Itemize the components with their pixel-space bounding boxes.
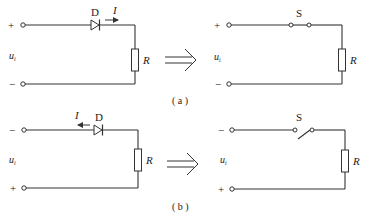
diode-icon: [94, 125, 103, 136]
panel-a-switch-circuit: + S R − ui: [214, 7, 357, 90]
bottom-terminal-icon: [227, 82, 231, 86]
top-terminal-polarity: +: [214, 19, 220, 31]
equivalence-arrow-icon: [167, 153, 198, 175]
top-terminal-icon: [21, 23, 25, 27]
source-voltage-label: ui: [214, 51, 221, 63]
bottom-terminal-icon: [22, 186, 26, 190]
resistor-label: R: [145, 154, 153, 166]
switch-closed-icon: [289, 23, 311, 27]
bottom-terminal-icon: [21, 82, 25, 86]
diode-icon: [91, 20, 100, 31]
top-terminal-polarity: −: [9, 124, 15, 136]
source-voltage-label: ui: [9, 154, 16, 166]
bottom-terminal-polarity: −: [215, 78, 221, 90]
caption-b: ( b ): [172, 201, 189, 213]
resistor-icon: [342, 150, 349, 172]
panel-b-diode-circuit: − D I R + ui: [9, 109, 153, 194]
top-terminal-polarity: +: [8, 19, 14, 31]
resistor-icon: [132, 49, 139, 71]
panel-b-switch-circuit: − S R + ui: [218, 111, 360, 195]
equivalence-arrow-icon: [165, 49, 196, 71]
circuit-diagram: + D I R − ui + S: [0, 0, 368, 219]
resistor-label: R: [349, 54, 357, 66]
caption-a: ( a ): [172, 95, 188, 107]
bottom-terminal-icon: [230, 187, 234, 191]
bottom-terminal-polarity: −: [9, 78, 15, 90]
switch-label: S: [296, 7, 302, 19]
current-label: I: [112, 4, 118, 16]
top-terminal-icon: [230, 128, 234, 132]
switch-open-icon: [293, 128, 314, 139]
bottom-terminal-polarity: +: [218, 183, 224, 195]
resistor-icon: [339, 49, 346, 71]
panel-a-diode-circuit: + D I R − ui: [8, 4, 150, 90]
diode-label: D: [91, 6, 99, 18]
top-terminal-polarity: −: [218, 124, 224, 136]
switch-label: S: [296, 111, 302, 123]
resistor-label: R: [142, 54, 150, 66]
resistor-icon: [135, 149, 142, 171]
source-voltage-label: ui: [220, 154, 227, 166]
source-voltage-label: ui: [9, 50, 16, 62]
top-terminal-icon: [22, 128, 26, 132]
bottom-terminal-polarity: +: [10, 182, 16, 194]
diode-label: D: [95, 111, 103, 123]
top-terminal-icon: [227, 23, 231, 27]
current-label: I: [74, 109, 80, 121]
resistor-label: R: [352, 155, 360, 167]
